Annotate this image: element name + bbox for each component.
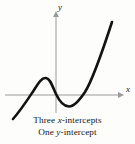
caption-line2-prefix: One bbox=[38, 127, 56, 137]
caption-line-x-intercepts: Three x-intercepts bbox=[0, 115, 135, 127]
caption-line-y-intercept: One y-intercept bbox=[0, 127, 135, 139]
x-axis-arrowhead bbox=[118, 92, 124, 98]
math-figure: y x Three x-intercepts One y-intercept bbox=[0, 0, 135, 144]
caption-line1-suffix: -intercepts bbox=[62, 115, 102, 125]
caption-line1-prefix: Three bbox=[33, 115, 57, 125]
x-axis-label: x bbox=[125, 84, 130, 94]
caption-line2-suffix: -intercept bbox=[61, 127, 97, 137]
cubic-curve bbox=[13, 22, 112, 119]
figure-caption: Three x-intercepts One y-intercept bbox=[0, 115, 135, 138]
x-axis bbox=[5, 92, 124, 98]
y-axis-label: y bbox=[57, 2, 62, 12]
